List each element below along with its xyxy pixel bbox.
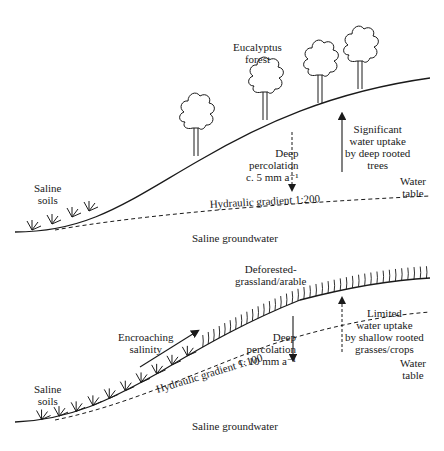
uptake-line: water uptake	[345, 135, 410, 147]
grass-stroke	[304, 287, 305, 299]
tree-icon	[180, 93, 215, 156]
grass-stroke	[414, 267, 415, 279]
grass-stroke	[334, 280, 335, 292]
top-percolation-label: Deep percolation c. 5 mm a⁻¹	[246, 147, 298, 183]
grass-stroke	[352, 276, 353, 288]
bottom-saline-soils-label: Saline soils	[34, 383, 62, 407]
grass-stroke	[322, 283, 323, 295]
top-groundwater-label: Saline groundwater	[192, 232, 278, 244]
grass-stroke	[258, 306, 259, 318]
bottom-groundwater-label: Saline groundwater	[192, 420, 278, 432]
grass-stroke	[241, 314, 242, 326]
grass-stroke	[328, 281, 329, 293]
top-uptake-label: Significant water uptake by deep rooted …	[345, 123, 410, 171]
saline-plant-icon	[47, 214, 61, 224]
water-table-line: Water	[400, 175, 426, 187]
water-table-line: table	[400, 369, 426, 381]
grass-stroke	[292, 291, 293, 303]
grass-stroke	[214, 329, 215, 341]
percolation-line: c. 5 mm a⁻¹	[246, 171, 298, 183]
water-table-line: table	[400, 187, 426, 199]
grass-stroke	[281, 296, 282, 308]
land-use-line: Deforested-	[235, 263, 306, 275]
grass-stroke	[230, 320, 231, 332]
uptake-line: Limited	[345, 307, 424, 319]
saline-soils-line: soils	[34, 395, 62, 407]
grass-stroke	[252, 309, 253, 321]
percolation-line: Deep	[246, 147, 298, 159]
encroaching-line: salinity	[118, 343, 174, 355]
grass-stroke	[371, 273, 372, 285]
uptake-line: trees	[345, 159, 410, 171]
tree-icon	[344, 26, 379, 89]
top-water-table-label: Water table	[400, 175, 426, 199]
grass-stroke	[275, 299, 276, 311]
saline-plant-icon	[67, 207, 81, 217]
grass-stroke	[225, 323, 226, 335]
uptake-line: Significant	[345, 123, 410, 135]
uptake-line: grasses/crops	[345, 343, 424, 355]
grass-stroke	[359, 275, 360, 287]
water-table-line: Water	[400, 357, 426, 369]
grass-stroke	[269, 301, 270, 313]
grass-stroke	[395, 269, 396, 281]
grass-stroke	[286, 294, 287, 306]
bottom-water-table-label: Water table	[400, 357, 426, 381]
tree-icon	[249, 57, 284, 120]
uptake-line: water uptake	[345, 319, 424, 331]
uptake-line: by shallow rooted	[345, 331, 424, 343]
grass-stroke	[420, 267, 421, 279]
bottom-uptake-label: Limited water uptake by shallow rooted g…	[345, 307, 424, 355]
grass-stroke	[426, 266, 427, 278]
salinity-diagram	[0, 0, 444, 451]
percolation-line: percolation	[246, 159, 298, 171]
encroaching-line: Encroaching	[118, 331, 174, 343]
saline-soils-line: Saline	[34, 383, 62, 395]
grass-stroke	[208, 332, 209, 344]
grass-stroke	[203, 335, 204, 347]
grass-stroke	[346, 277, 347, 289]
grass-stroke	[340, 278, 341, 290]
forest-label-line: forest	[233, 53, 282, 65]
grass-stroke	[377, 272, 378, 284]
saline-soils-line: soils	[34, 194, 62, 206]
grass-stroke	[219, 326, 220, 338]
grass-stroke	[389, 270, 390, 282]
forest-label-line: Eucalyptus	[233, 41, 282, 53]
encroaching-label: Encroaching salinity	[118, 331, 174, 355]
grass-stroke	[298, 289, 299, 301]
grass-stroke	[402, 268, 403, 280]
grass-stroke	[365, 274, 366, 286]
saline-plant-icon	[27, 220, 41, 230]
top-saline-soils-label: Saline soils	[34, 182, 62, 206]
grass-stroke	[264, 304, 265, 316]
saline-soils-line: Saline	[34, 182, 62, 194]
grass-stroke	[316, 284, 317, 296]
saline-plant-icon	[84, 201, 98, 211]
grass-stroke	[383, 271, 384, 283]
saline-plant-icon	[71, 401, 85, 411]
land-use-line: grassland/arable	[235, 275, 306, 287]
uptake-line: by deep rooted	[345, 147, 410, 159]
grass-stroke	[408, 268, 409, 280]
grass-stroke	[236, 317, 237, 329]
grass-stroke	[310, 285, 311, 297]
forest-label: Eucalyptus forest	[233, 41, 282, 65]
tree-icon	[304, 40, 339, 103]
land-use-label: Deforested- grassland/arable	[235, 263, 306, 287]
percolation-line: Deep	[238, 331, 296, 343]
grass-stroke	[247, 312, 248, 324]
percolation-line: percolation	[238, 343, 296, 355]
